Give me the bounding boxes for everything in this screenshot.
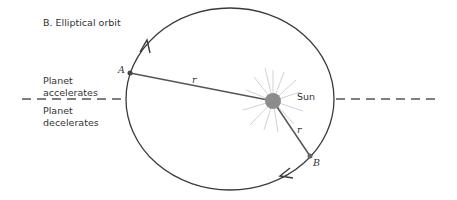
planet-point-b xyxy=(308,154,313,159)
radius-line-b xyxy=(273,101,310,156)
point-b-label: B xyxy=(313,157,320,169)
label-line: Planet xyxy=(43,105,99,117)
label-line: accelerates xyxy=(43,87,98,99)
label-line: Planet xyxy=(43,75,98,87)
elliptical-orbit-diagram xyxy=(0,0,457,200)
diagram-title: B. Elliptical orbit xyxy=(43,17,121,29)
sun-icon xyxy=(265,93,281,109)
sun-label: Sun xyxy=(297,91,315,103)
planet-point-a xyxy=(128,71,133,76)
radius-b-label: r xyxy=(297,124,302,136)
radius-a-label: r xyxy=(192,74,197,86)
label-line: decelerates xyxy=(43,117,99,129)
planet-accelerates-label: Planet accelerates xyxy=(43,75,98,99)
radius-line-a xyxy=(130,73,273,101)
planet-decelerates-label: Planet decelerates xyxy=(43,105,99,129)
point-a-label: A xyxy=(118,64,125,76)
